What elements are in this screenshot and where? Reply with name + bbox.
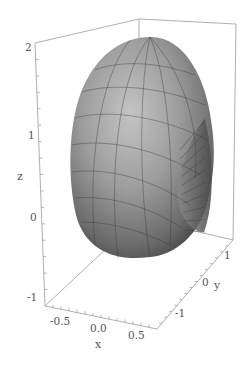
y-axis-label: y	[213, 279, 221, 292]
z-tick-label: 2	[25, 41, 32, 53]
z-tick-labels: 2 1 0 -1	[25, 41, 37, 303]
y-axis-line	[157, 240, 233, 329]
y-tick-label: 1	[224, 249, 231, 261]
surface-plot: 2 1 0 -1 -0.5 0.0 0.5 -1 0 1 x y z	[0, 0, 248, 365]
x-tick-label: -0.5	[50, 315, 70, 327]
z-tick-label: -1	[27, 291, 37, 303]
z-axis-label: z	[17, 170, 23, 183]
y-tick-labels: -1 0 1	[175, 249, 231, 319]
box-edge	[139, 19, 236, 24]
box-edge	[35, 19, 139, 43]
x-tick-label: 0.5	[128, 329, 145, 341]
z-tick-label: 0	[30, 211, 37, 223]
x-axis-label: x	[95, 338, 102, 351]
box-edge	[233, 24, 236, 240]
z-tick-label: 1	[28, 129, 35, 141]
y-tick-label: 0	[202, 276, 209, 288]
y-tick-label: -1	[175, 307, 185, 319]
x-tick-label: 0.0	[90, 322, 107, 334]
surface	[70, 37, 213, 258]
